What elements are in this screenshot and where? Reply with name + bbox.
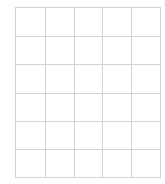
empty-grid [15,7,161,178]
grid-row-divider [16,64,160,65]
blank-grid-canvas [0,0,165,184]
grid-row-divider [16,149,160,150]
grid-row-divider [16,36,160,37]
grid-row-divider [16,121,160,122]
grid-row-divider [16,93,160,94]
